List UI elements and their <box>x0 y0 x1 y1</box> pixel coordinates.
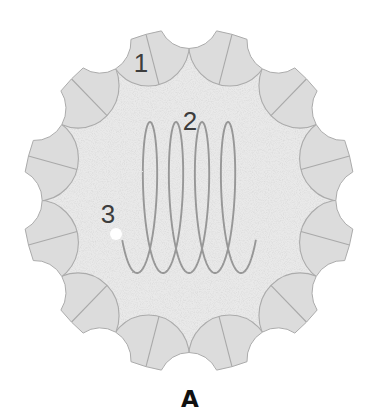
label-2: 2 <box>183 106 197 136</box>
gear-diagram: 1 2 3 A <box>0 0 383 419</box>
start-point-marker <box>110 228 122 240</box>
label-1: 1 <box>134 48 148 78</box>
gear-shape <box>0 1 382 401</box>
panel-label: A <box>181 386 199 412</box>
label-3: 3 <box>101 199 115 229</box>
